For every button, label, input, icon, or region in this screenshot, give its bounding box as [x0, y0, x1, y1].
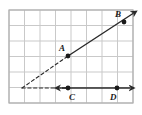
point-b-marker: [122, 20, 127, 25]
point-c-label: C: [69, 92, 76, 102]
geometry-figure: A B C D: [0, 0, 142, 115]
point-b-label: B: [114, 9, 121, 19]
point-a-marker: [66, 54, 71, 59]
point-c-marker: [66, 86, 71, 91]
point-d-label: D: [109, 92, 117, 102]
point-d-marker: [115, 86, 120, 91]
point-a-label: A: [58, 43, 65, 53]
figure-canvas: A B C D: [0, 0, 142, 115]
